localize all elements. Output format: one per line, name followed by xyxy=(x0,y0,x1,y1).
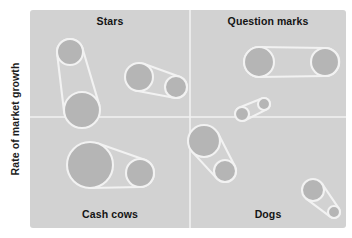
bubble xyxy=(125,63,153,91)
bcg-matrix-figure: Rate of market growth Stars Question mar… xyxy=(0,0,352,238)
quadrant-label-stars-text: Stars xyxy=(97,15,124,27)
matrix-plot-area xyxy=(30,10,346,228)
bubble-group xyxy=(67,142,154,188)
bubble-group xyxy=(188,125,236,182)
bubble xyxy=(64,92,100,128)
bubble xyxy=(302,179,324,201)
quadrant-label-cash-cows-text: Cash cows xyxy=(82,208,138,220)
bubble xyxy=(235,107,249,121)
bubble-group xyxy=(244,47,339,77)
quadrant-label-stars: Stars xyxy=(30,10,190,32)
quadrant-label-dogs: Dogs xyxy=(190,203,346,225)
bubble xyxy=(126,159,154,187)
bubble-groups xyxy=(57,39,340,218)
quadrant-label-question-marks: Question marks xyxy=(190,10,346,32)
y-axis-label: Rate of market growth xyxy=(0,0,30,238)
matrix-panel xyxy=(30,10,346,228)
quadrant-label-cash-cows: Cash cows xyxy=(30,203,190,225)
bubble xyxy=(165,76,187,98)
bubble-group xyxy=(57,39,100,128)
y-axis-label-text: Rate of market growth xyxy=(9,63,21,176)
bubble xyxy=(57,39,83,65)
bubble xyxy=(67,142,113,188)
bubble xyxy=(258,98,270,110)
quadrant-label-question-marks-text: Question marks xyxy=(228,15,309,27)
bubble xyxy=(244,47,274,77)
quadrant-label-dogs-text: Dogs xyxy=(255,208,282,220)
bubble xyxy=(311,48,339,76)
bubble xyxy=(214,160,236,182)
bubble-group xyxy=(125,63,187,98)
bubble xyxy=(188,125,220,157)
